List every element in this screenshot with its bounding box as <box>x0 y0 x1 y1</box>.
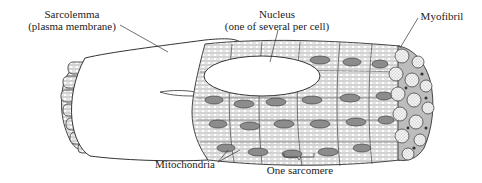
sarcomere-label: One sarcomere <box>262 164 338 176</box>
mitochondria-label-title: Mitochondria <box>150 158 220 170</box>
myofibril-label-title: Myofibril <box>412 10 472 22</box>
fibril-bundle <box>192 40 400 166</box>
nucleus-label-title: Nucleus <box>222 8 332 20</box>
muscle-fiber-diagram: Sarcolemma (plasma membrane) Nucleus (on… <box>0 0 482 183</box>
sarcomere-label-title: One sarcomere <box>262 164 338 176</box>
mitochondria-label: Mitochondria <box>150 158 220 170</box>
sarcolemma-label-subtitle: (plasma membrane) <box>22 20 122 32</box>
myofibril-label: Myofibril <box>412 10 472 22</box>
nucleus-label-subtitle: (one of several per cell) <box>222 20 332 32</box>
sarcolemma-label: Sarcolemma (plasma membrane) <box>22 8 122 32</box>
sarcolemma-label-title: Sarcolemma <box>22 8 122 20</box>
nucleus <box>204 56 320 96</box>
nucleus-label: Nucleus (one of several per cell) <box>222 8 332 32</box>
